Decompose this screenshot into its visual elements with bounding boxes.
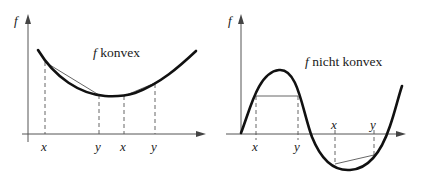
tick-label-x2: x <box>119 139 126 154</box>
non-convex-curve <box>241 70 402 170</box>
tick-label-x1: x <box>40 139 47 154</box>
tick-label-y2: y <box>368 117 376 132</box>
y-axis-arrow-icon <box>25 14 31 24</box>
tick-label-x1: x <box>251 139 258 154</box>
panel-convex: f f konvex x y x y <box>14 13 206 154</box>
tick-label-y1: y <box>292 139 300 154</box>
chord-1 <box>45 62 99 95</box>
tick-label-y1: y <box>93 139 101 154</box>
y-axis-arrow-icon <box>238 14 244 24</box>
y-axis-label: f <box>14 13 20 28</box>
caption-not-convex: f nicht konvex <box>305 54 383 69</box>
tick-label-x2: x <box>330 117 337 132</box>
caption-text: nicht konvex <box>309 54 383 69</box>
panel-not-convex: f f nicht konvex x y x y <box>226 13 406 170</box>
y-axis-label: f <box>228 13 234 28</box>
x-axis-arrow-icon <box>396 131 406 137</box>
convexity-diagram: f f konvex x y x y f f nicht konvex <box>0 0 423 179</box>
caption-convex: f konvex <box>93 45 140 60</box>
caption-text: konvex <box>97 45 140 60</box>
tick-label-y2: y <box>149 139 157 154</box>
x-axis-arrow-icon <box>196 131 206 137</box>
